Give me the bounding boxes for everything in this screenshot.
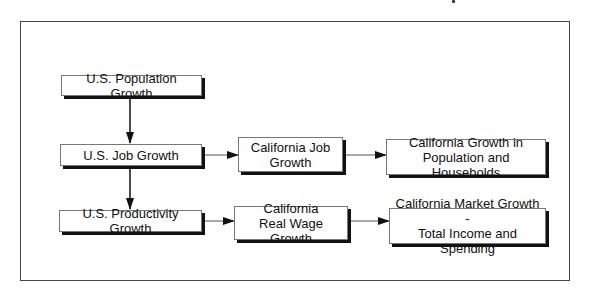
node-california-real-wage-growth: California Real Wage Growth xyxy=(234,206,348,240)
node-us-population-growth: U.S. Population Growth xyxy=(61,75,202,96)
node-us-job-growth: U.S. Job Growth xyxy=(60,144,202,166)
node-california-market-growth: California Market Growth - Total Income … xyxy=(389,208,546,244)
node-label-line2: Growth xyxy=(270,155,312,170)
node-label-line2: Real Wage Growth xyxy=(238,216,344,246)
node-label-line1: California Growth in xyxy=(409,135,523,150)
node-label-line2: Total Income and Spending xyxy=(393,226,542,256)
node-label-line1: California xyxy=(264,201,319,216)
node-us-productivity-growth: U.S. Productivity Growth xyxy=(59,210,202,232)
node-california-population-households: California Growth in Population and Hous… xyxy=(386,139,546,175)
node-label: U.S. Productivity Growth xyxy=(63,206,198,236)
node-label-line1: California Job xyxy=(251,140,331,155)
node-label: U.S. Job Growth xyxy=(83,148,178,163)
node-label-line2: Population and Households xyxy=(390,150,542,180)
node-california-job-growth: California Job Growth xyxy=(238,137,343,172)
node-label: U.S. Population Growth xyxy=(65,71,198,101)
node-label-line1: California Market Growth - xyxy=(393,196,542,226)
